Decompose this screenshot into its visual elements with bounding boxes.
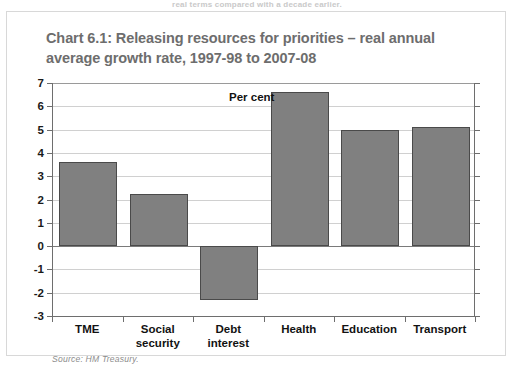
bar-social-security[interactable] bbox=[130, 194, 188, 246]
x-tick-mark bbox=[264, 316, 265, 322]
bars bbox=[53, 83, 474, 316]
bar-education[interactable] bbox=[341, 130, 399, 247]
y-axis-tick-label: 0 bbox=[38, 240, 44, 252]
y-axis-tick-label: -1 bbox=[34, 263, 44, 275]
x-tick-mark bbox=[52, 316, 53, 322]
source-note: Source: HM Treasury. bbox=[52, 354, 139, 364]
chart-title: Chart 6.1: Releasing resources for prior… bbox=[46, 28, 476, 68]
y-axis-tick-label: 3 bbox=[38, 170, 44, 182]
y-axis-tick-label: -2 bbox=[34, 287, 44, 299]
x-tick-mark bbox=[405, 316, 406, 322]
y-tick-mark-right bbox=[474, 83, 480, 84]
x-axis-label-line: Debt bbox=[193, 323, 264, 337]
x-tick-mark bbox=[123, 316, 124, 322]
x-axis-label-education: Education bbox=[334, 323, 405, 337]
x-axis-label-line: security bbox=[123, 337, 194, 351]
y-tick-mark-right bbox=[474, 293, 480, 294]
y-axis-tick-label: 1 bbox=[38, 217, 44, 229]
y-tick-mark-right bbox=[474, 269, 480, 270]
y-axis-tick-label: 7 bbox=[38, 77, 44, 89]
x-tick-mark bbox=[475, 316, 476, 322]
x-tick-mark bbox=[334, 316, 335, 322]
axis-unit-label: Per cent bbox=[229, 91, 274, 103]
x-axis-label-tme: TME bbox=[52, 323, 123, 337]
x-tick-mark bbox=[193, 316, 194, 322]
y-axis-tick-label: 4 bbox=[38, 147, 44, 159]
bar-health[interactable] bbox=[271, 92, 329, 246]
x-axis-label-debt-interest: Debtinterest bbox=[193, 323, 264, 350]
y-tick-mark-right bbox=[474, 153, 480, 154]
y-axis-tick-label: -3 bbox=[34, 310, 44, 322]
y-tick-mark-right bbox=[474, 176, 480, 177]
y-tick-mark-right bbox=[474, 130, 480, 131]
bar-transport[interactable] bbox=[412, 127, 470, 246]
y-tick-mark-right bbox=[474, 246, 480, 247]
page-body-text-fragment: real terms compared with a decade earlie… bbox=[0, 0, 514, 10]
x-axis-label-line: Transport bbox=[405, 323, 476, 337]
x-axis-labels: TMESocialsecurityDebtinterestHealthEduca… bbox=[52, 323, 475, 357]
y-tick-mark-right bbox=[474, 200, 480, 201]
x-axis-label-line: TME bbox=[52, 323, 123, 337]
x-axis-label-health: Health bbox=[264, 323, 335, 337]
x-axis-label-transport: Transport bbox=[405, 323, 476, 337]
x-axis-label-line: Education bbox=[334, 323, 405, 337]
x-axis-label-social-security: Socialsecurity bbox=[123, 323, 194, 350]
x-axis-label-line: Social bbox=[123, 323, 194, 337]
y-axis-tick-label: 6 bbox=[38, 100, 44, 112]
y-tick-mark-right bbox=[474, 223, 480, 224]
bar-tme[interactable] bbox=[59, 162, 117, 246]
bar-debt-interest[interactable] bbox=[200, 246, 258, 300]
chart-figure-frame: Chart 6.1: Releasing resources for prior… bbox=[6, 11, 506, 356]
x-axis-label-line: Health bbox=[264, 323, 335, 337]
plot-area: 76543210-1-2-3 Per cent bbox=[52, 83, 475, 316]
y-axis-tick-label: 5 bbox=[38, 124, 44, 136]
x-axis-label-line: interest bbox=[193, 337, 264, 351]
y-axis-tick-label: 2 bbox=[38, 194, 44, 206]
y-tick-mark-right bbox=[474, 106, 480, 107]
